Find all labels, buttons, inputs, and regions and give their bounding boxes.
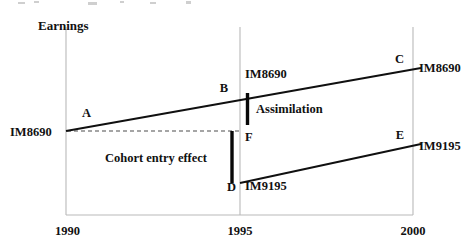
x-tick-2000: 2000 — [401, 224, 426, 238]
annotation-cohort-entry-effect: Cohort entry effect — [105, 151, 208, 165]
earnings-assimilation-diagram: Earnings 1990 1995 2000 IM8690 IM8690 IM… — [0, 0, 473, 247]
series-label-im9195-right: IM9195 — [419, 139, 461, 153]
series-label-im8690-left: IM8690 — [10, 125, 52, 139]
point-label-d: D — [227, 180, 236, 194]
x-tick-1995: 1995 — [228, 224, 253, 238]
point-label-a: A — [82, 106, 91, 120]
series-label-im8690-mid: IM8690 — [245, 67, 287, 81]
series-label-im9195-mid: IM9195 — [245, 179, 287, 193]
point-label-b: B — [220, 81, 228, 95]
point-label-c: C — [395, 52, 404, 66]
annotation-assimilation: Assimilation — [256, 102, 323, 116]
x-tick-1990: 1990 — [55, 224, 80, 238]
diagram-canvas: Earnings 1990 1995 2000 IM8690 IM8690 IM… — [0, 0, 473, 247]
point-label-f: F — [245, 130, 253, 144]
point-label-e: E — [396, 128, 404, 142]
canvas-background — [0, 0, 473, 247]
y-axis-title: Earnings — [38, 18, 89, 33]
series-label-im8690-right: IM8690 — [419, 61, 461, 75]
